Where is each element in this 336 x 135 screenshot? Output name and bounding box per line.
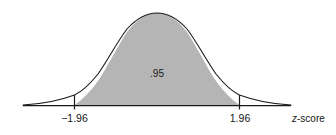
shaded-confidence-region [75, 13, 240, 105]
axis-title-suffix: -score [297, 113, 325, 124]
distribution-chart-svg: .95 −1.96 1.96 z-score [0, 0, 336, 135]
shaded-area-label: .95 [150, 68, 164, 79]
normal-curve-figure: .95 −1.96 1.96 z-score [0, 0, 336, 135]
tick-label-upper: 1.96 [230, 112, 251, 124]
axis-title-z-score: z-score [291, 113, 325, 124]
tick-label-lower: −1.96 [61, 112, 88, 124]
